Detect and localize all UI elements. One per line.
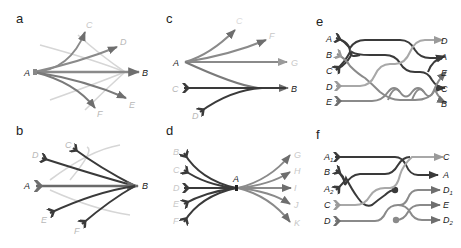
node-label-f: F bbox=[269, 31, 275, 41]
node-label-d: D bbox=[192, 111, 199, 121]
route-split-to-e bbox=[396, 205, 440, 220]
node-label-f: F bbox=[97, 109, 103, 119]
node-label-c: C bbox=[86, 20, 93, 30]
node-label-right-e: E bbox=[443, 200, 450, 210]
route-d-to-d bbox=[336, 40, 443, 86]
node-label-c: C bbox=[65, 140, 72, 150]
node-label-f: F bbox=[173, 216, 179, 226]
panel-c: c A C D B G F C bbox=[166, 11, 298, 121]
node-label-a: A bbox=[232, 174, 239, 184]
figure-canvas: a A B C D E F b bbox=[0, 0, 461, 248]
panel-b-label: b bbox=[16, 123, 23, 138]
node-label-b: B bbox=[291, 84, 297, 94]
node-label-g: G bbox=[294, 150, 301, 160]
node-label-left-e: E bbox=[326, 97, 333, 107]
node-label-c: C bbox=[173, 165, 180, 175]
node-label-left-d: D bbox=[324, 216, 331, 226]
node-label-h: H bbox=[294, 166, 301, 176]
node-label-d: D bbox=[120, 37, 127, 47]
panel-a: a A B C D E F bbox=[16, 11, 148, 119]
edge-c-to-b bbox=[73, 148, 135, 186]
node-label-right-a: A bbox=[440, 52, 447, 62]
edge-a-to-b bbox=[185, 62, 288, 88]
panel-e-label: e bbox=[316, 14, 323, 29]
node-label-a: A bbox=[23, 68, 30, 78]
node-label-left-d: D bbox=[326, 82, 333, 92]
node-label-e: E bbox=[173, 199, 180, 209]
node-label-left-a1: A1 bbox=[323, 152, 333, 163]
panel-d-label: d bbox=[166, 123, 173, 138]
node-label-c-top: C bbox=[236, 16, 243, 26]
panel-a-label: a bbox=[16, 11, 24, 26]
node-label-a: A bbox=[23, 181, 30, 191]
hub-a-marker bbox=[235, 185, 238, 191]
edge-d-to-b bbox=[200, 88, 262, 112]
node-label-b: B bbox=[142, 181, 148, 191]
panel-f-label: f bbox=[316, 127, 320, 142]
panel-f-paths bbox=[335, 157, 443, 221]
node-label-b: B bbox=[173, 147, 179, 157]
panel-b-paths bbox=[36, 148, 138, 224]
node-label-left-a2: A2 bbox=[323, 184, 334, 195]
panel-f: f A1 B A2 C D C A D1 E bbox=[316, 127, 454, 226]
node-label-g: G bbox=[291, 58, 298, 68]
route-a1-to-a bbox=[335, 157, 438, 175]
panel-e-paths bbox=[336, 38, 446, 103]
node-label-right-d2: D2 bbox=[443, 215, 454, 226]
node-label-right-a: A bbox=[442, 170, 449, 180]
node-label-d: D bbox=[32, 150, 39, 160]
panel-e: e A B C D E D A E C B bbox=[316, 14, 448, 109]
node-label-e: E bbox=[129, 100, 136, 110]
edge-d-to-b bbox=[42, 158, 135, 186]
node-label-left-c: C bbox=[324, 200, 331, 210]
panel-f-right-labels: C A D1 E D2 bbox=[442, 152, 454, 226]
node-label-d: D bbox=[173, 183, 180, 193]
edge-a-to-f bbox=[185, 40, 266, 62]
panel-d: d A B C D E F G H I J K bbox=[166, 123, 301, 228]
node-label-i: I bbox=[294, 183, 297, 193]
node-label-left-b: B bbox=[324, 167, 330, 177]
edge-e-to-b bbox=[50, 186, 135, 213]
node-label-b: B bbox=[142, 68, 148, 78]
node-label-f: F bbox=[74, 226, 80, 236]
route-c-to-c bbox=[335, 157, 443, 205]
panel-f-left-labels: A1 B A2 C D bbox=[323, 152, 334, 226]
node-label-right-d1: D1 bbox=[443, 185, 453, 196]
node-label-right-b: B bbox=[441, 99, 447, 109]
panel-b-background-paths bbox=[50, 145, 130, 215]
panel-c-paths bbox=[184, 30, 288, 112]
node-label-right-c: C bbox=[441, 84, 448, 94]
node-label-e: E bbox=[41, 215, 48, 225]
panel-c-label: c bbox=[166, 11, 173, 26]
node-label-a: A bbox=[172, 58, 179, 68]
node-label-left-c: C bbox=[326, 66, 333, 76]
panel-b: b A B C D E F bbox=[16, 123, 148, 236]
node-label-j: J bbox=[293, 200, 299, 210]
node-label-right-e: E bbox=[441, 68, 448, 78]
node-label-left-b: B bbox=[326, 50, 332, 60]
node-label-right-c: C bbox=[443, 152, 450, 162]
node-label-right-d: D bbox=[441, 36, 448, 46]
node-label-k: K bbox=[294, 218, 301, 228]
source-a-marker bbox=[33, 69, 37, 75]
node-label-left-a: A bbox=[325, 34, 332, 44]
node-label-c: C bbox=[172, 84, 179, 94]
